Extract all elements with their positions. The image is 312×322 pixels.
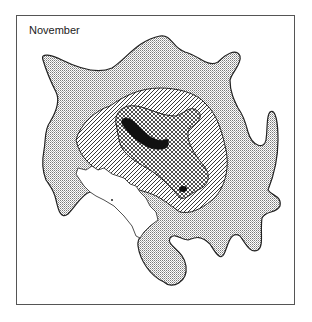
- core-spot: [179, 186, 187, 192]
- island-dot: [111, 199, 113, 201]
- map-canvas: [0, 0, 312, 322]
- map-title: November: [29, 24, 80, 36]
